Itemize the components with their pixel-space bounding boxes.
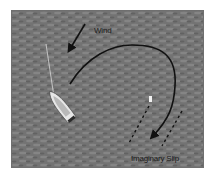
wind-label: Wind	[94, 26, 111, 35]
slip-marker-icon	[149, 96, 152, 102]
diagram-frame: Wind Imaginary Slip	[11, 10, 204, 168]
imaginary-slip-label: Imaginary Slip	[131, 154, 179, 163]
